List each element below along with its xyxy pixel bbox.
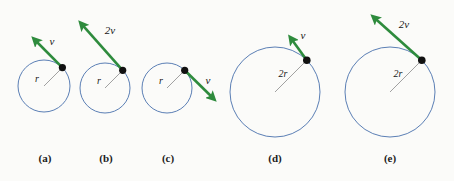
panel-caption: (a) [25, 152, 65, 164]
radius-label: r [97, 75, 101, 86]
panel-caption: (b) [86, 152, 126, 164]
panel-caption: (d) [255, 152, 295, 164]
panel-caption: (c) [148, 152, 188, 164]
velocity-label: 2v [399, 18, 409, 30]
velocity-arrow [34, 39, 62, 67]
panel-d [230, 38, 320, 137]
velocity-label: v [301, 29, 306, 41]
radius-line [105, 70, 123, 88]
particle-dot [181, 67, 188, 74]
panel-a [18, 39, 70, 112]
radius-label: 2r [394, 68, 403, 79]
velocity-label: 2v [105, 24, 115, 36]
panel-e [345, 17, 435, 137]
panel-c [142, 63, 214, 113]
particle-dot [119, 67, 126, 74]
panel-b [80, 23, 130, 113]
velocity-label: v [50, 35, 55, 47]
radius-label: r [159, 75, 163, 86]
radius-label: r [35, 73, 39, 84]
radius-label: 2r [279, 68, 288, 79]
radius-line [167, 70, 185, 88]
velocity-label: v [206, 74, 211, 86]
particle-dot [303, 56, 311, 64]
velocity-arrow [373, 17, 421, 60]
radius-line [44, 68, 62, 86]
particle-dot [59, 64, 66, 71]
physics-figure-panels: vr(a)2vr(b)vr(c)v2r(d)2v2r(e) [0, 0, 454, 181]
panel-caption: (e) [370, 152, 410, 164]
particle-dot [418, 56, 426, 64]
velocity-arrow [291, 38, 307, 60]
